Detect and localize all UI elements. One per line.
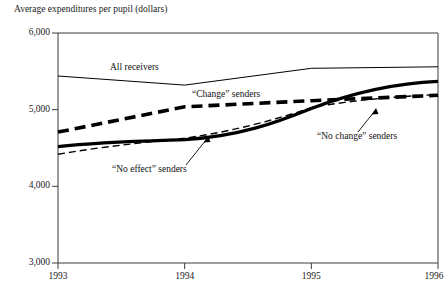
x-tick-label-1996: 1996 bbox=[414, 271, 447, 281]
series-label-change-senders: “Change” senders bbox=[192, 89, 260, 99]
series-label-no-change-senders: “No change” senders bbox=[317, 131, 397, 141]
leader-no-change-senders bbox=[358, 108, 379, 132]
chart-figure: Average expenditures per pupil (dollars) bbox=[0, 0, 447, 295]
y-tick-label-6000: 6,000 bbox=[10, 27, 50, 37]
series-label-no-effect-senders: “No effect” senders bbox=[112, 164, 187, 174]
y-tick-label-3000: 3,000 bbox=[10, 257, 50, 267]
chart-plot-area bbox=[0, 0, 447, 295]
x-axis-ticks bbox=[58, 263, 438, 269]
y-tick-label-5000: 5,000 bbox=[10, 104, 50, 114]
x-tick-label-1995: 1995 bbox=[291, 271, 331, 281]
y-axis-ticks bbox=[52, 33, 58, 263]
x-tick-label-1993: 1993 bbox=[38, 271, 78, 281]
series-label-all-receivers: All receivers bbox=[110, 62, 159, 72]
x-tick-label-1994: 1994 bbox=[165, 271, 205, 281]
y-tick-label-4000: 4,000 bbox=[10, 180, 50, 190]
